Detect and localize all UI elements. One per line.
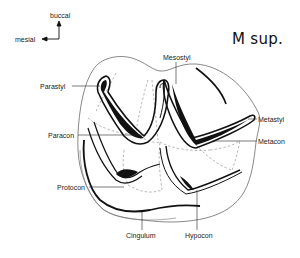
metacon-crest — [163, 68, 254, 148]
paracon-crest — [97, 76, 168, 144]
hypocon-crest — [160, 146, 242, 194]
orientation-arrows — [42, 21, 61, 41]
tooth-diagram — [0, 0, 300, 258]
cingulum-crest — [80, 140, 200, 220]
